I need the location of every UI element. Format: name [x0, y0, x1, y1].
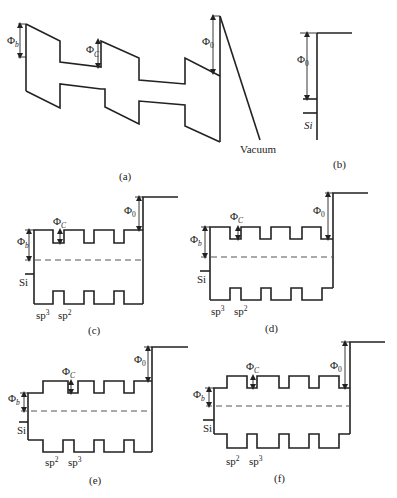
hybrid-label-2: sp2	[234, 304, 248, 317]
panel-d: Φb ΦC Φ0 Si sp3 sp2 (d)	[190, 193, 368, 335]
hybrid-label-1: sp3	[36, 308, 50, 321]
hybrid-label-1: sp2	[45, 455, 59, 468]
panel-a-valence-band	[26, 84, 220, 142]
panel-b: Φ0 Si (b)	[297, 33, 352, 171]
phi-0-label: Φ0	[202, 35, 214, 50]
si-label: Si	[17, 424, 26, 436]
phi-b-label: Φb	[7, 34, 19, 49]
caption-b: (b)	[333, 158, 346, 171]
panel-a-vacuum-pointer	[220, 16, 260, 140]
hybrid-label-2: sp3	[68, 455, 82, 468]
panel-c-right-edge	[143, 197, 178, 304]
panel-f-right-edge	[350, 342, 385, 434]
panel-d-valence-band	[210, 288, 333, 300]
si-label: Si	[19, 276, 28, 288]
caption-e: (e)	[89, 474, 102, 487]
panel-e-valence-band	[28, 440, 152, 452]
phi-0-label: Φ0	[124, 204, 136, 219]
phi-b-label: Φb	[8, 392, 20, 407]
panel-c-valence-band	[34, 291, 143, 304]
si-label: Si	[304, 119, 313, 131]
panel-c-conduction-band	[34, 230, 143, 304]
caption-a: (a)	[119, 170, 132, 183]
phi-b-label: Φb	[193, 388, 205, 403]
phi-0-label: Φ0	[330, 359, 342, 374]
phi-c-label: ΦC	[53, 215, 67, 230]
hybrid-label-2: sp3	[249, 454, 263, 467]
vacuum-label: Vacuum	[240, 143, 276, 155]
panel-a: Φb ΦC Φ0 Vacuum (a)	[7, 16, 276, 183]
band-diagram-figure: Φb ΦC Φ0 Vacuum (a) Φ0 Si (b) Φb ΦC Φ0 S…	[0, 0, 397, 498]
panel-a-conduction-band	[26, 24, 220, 84]
si-label: Si	[203, 422, 212, 434]
panel-f-valence-band	[214, 434, 350, 448]
panel-f-conduction-band	[214, 376, 350, 434]
phi-0-label: Φ0	[313, 204, 325, 219]
caption-d: (d)	[265, 322, 278, 335]
panel-d-right-edge	[333, 193, 368, 288]
phi-c-label: ΦC	[62, 365, 76, 380]
hybrid-label-1: sp3	[211, 304, 225, 317]
phi-b-label: Φb	[190, 233, 202, 248]
phi-c-label: ΦC	[230, 210, 244, 225]
panel-e: Φb ΦC Φ0 Si sp2 sp3 (e)	[8, 347, 188, 487]
panel-f: Φb ΦC Φ0 Si sp2 sp3 (f)	[193, 342, 385, 485]
caption-f: (f)	[274, 472, 285, 485]
phi-c-label: ΦC	[246, 360, 260, 375]
panel-c: Φb ΦC Φ0 Si sp3 sp2 (c)	[17, 197, 178, 337]
phi-b-label: Φb	[17, 235, 29, 250]
si-label: Si	[197, 273, 206, 285]
hybrid-label-1: sp2	[226, 454, 240, 467]
phi-0-label: Φ0	[134, 353, 146, 368]
caption-c: (c)	[88, 324, 101, 337]
panel-e-right-edge	[152, 347, 188, 452]
hybrid-label-2: sp2	[58, 308, 72, 321]
